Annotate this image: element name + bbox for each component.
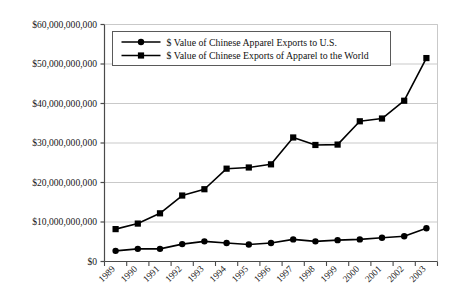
legend-marker-circle	[138, 39, 144, 45]
data-point	[357, 118, 363, 124]
data-point	[157, 210, 163, 216]
data-point	[112, 248, 118, 254]
data-point	[268, 161, 274, 167]
data-point	[357, 236, 363, 242]
y-axis-tick-label: $10,000,000,000	[32, 216, 97, 227]
y-axis-tick-label: $20,000,000,000	[32, 177, 97, 188]
data-point	[135, 246, 141, 252]
data-point	[401, 233, 407, 239]
data-point	[201, 186, 207, 192]
data-point	[246, 241, 252, 247]
data-point	[268, 240, 274, 246]
data-point	[379, 235, 385, 241]
y-axis-tick-label: $60,000,000,000	[32, 19, 97, 30]
data-point	[113, 226, 119, 232]
chart-container: $0$10,000,000,000$20,000,000,000$30,000,…	[0, 0, 453, 305]
data-point	[290, 236, 296, 242]
y-axis-tick-label: $0	[87, 256, 97, 267]
data-point	[312, 142, 318, 148]
data-point	[379, 115, 385, 121]
y-axis-tick-label: $40,000,000,000	[32, 98, 97, 109]
data-point	[157, 246, 163, 252]
data-point	[423, 225, 429, 231]
data-point	[224, 166, 230, 172]
legend-label: $ Value of Chinese Exports of Apparel to…	[167, 50, 369, 61]
y-axis-tick-label: $50,000,000,000	[32, 58, 97, 69]
data-point	[201, 238, 207, 244]
data-point	[290, 134, 296, 140]
data-point	[335, 141, 341, 147]
data-point	[423, 55, 429, 61]
data-point	[401, 98, 407, 104]
legend-marker-square	[138, 52, 144, 58]
y-axis-tick-label: $30,000,000,000	[32, 137, 97, 148]
data-point	[246, 164, 252, 170]
legend-label: $ Value of Chinese Apparel Exports to U.…	[167, 37, 337, 48]
data-point	[334, 237, 340, 243]
data-point	[223, 240, 229, 246]
data-point	[312, 238, 318, 244]
chart-legend[interactable]: $ Value of Chinese Apparel Exports to U.…	[113, 32, 391, 66]
data-point	[179, 241, 185, 247]
data-point	[179, 192, 185, 198]
data-point	[135, 220, 141, 226]
line-chart: $0$10,000,000,000$20,000,000,000$30,000,…	[0, 0, 453, 305]
